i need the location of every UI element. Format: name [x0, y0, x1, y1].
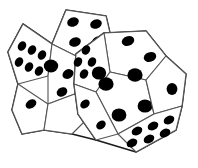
pip	[44, 60, 58, 73]
pip	[127, 68, 142, 82]
pip	[98, 77, 113, 91]
dice-svg	[0, 0, 198, 168]
pip	[112, 108, 127, 121]
pip	[167, 83, 178, 95]
pip	[138, 99, 153, 112]
dice-illustration-canvas	[0, 0, 198, 168]
